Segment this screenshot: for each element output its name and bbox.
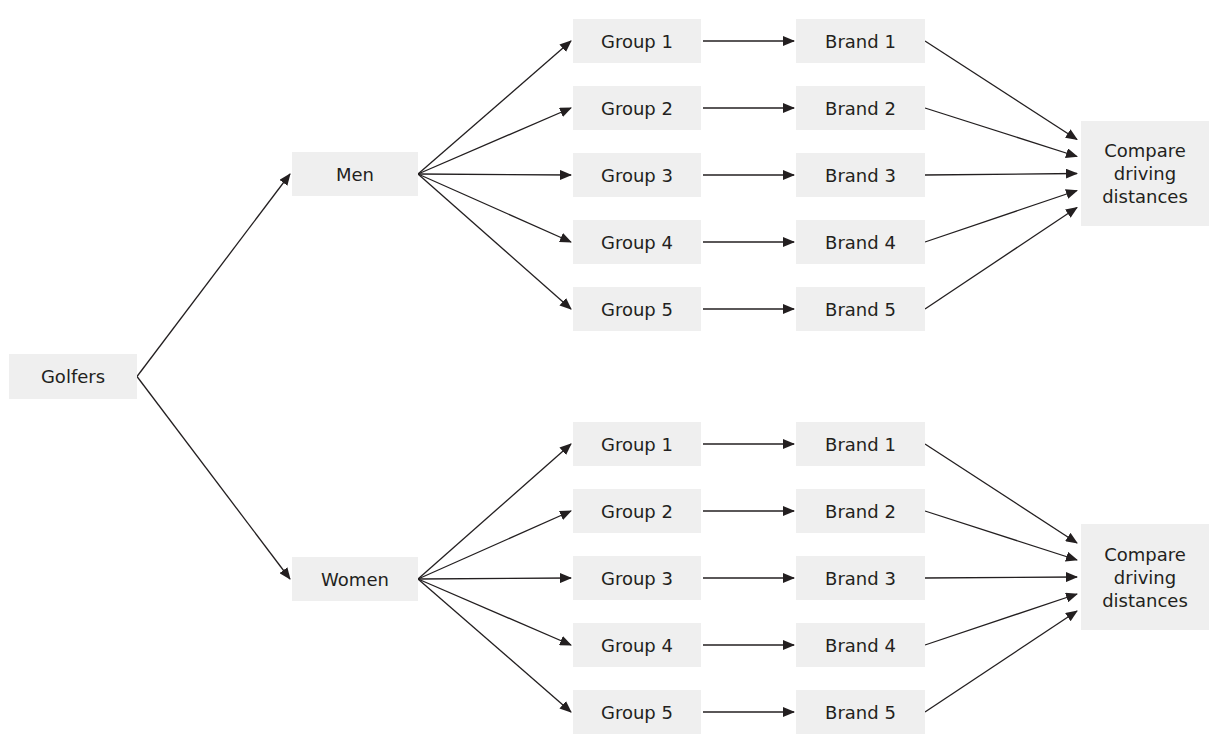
men-group-1-box: Group 1 xyxy=(573,19,701,63)
arrow-men-brand-1-to-compare xyxy=(925,41,1077,140)
men-brand-1-box: Brand 1 xyxy=(796,19,925,63)
arrow-women-to-group-5 xyxy=(418,579,571,712)
women-brand-1-box: Brand 1 xyxy=(796,422,925,466)
arrow-women-to-group-4 xyxy=(418,579,571,645)
golfers-box: Golfers xyxy=(9,354,137,399)
women-box: Women xyxy=(292,557,418,601)
arrow-women-to-group-3 xyxy=(418,578,571,579)
arrow-men-to-group-2 xyxy=(418,108,571,174)
arrow-women-brand-1-to-compare xyxy=(925,444,1077,543)
arrow-men-to-group-5 xyxy=(418,174,571,309)
men-brand-4-box: Brand 4 xyxy=(796,220,925,264)
arrow-men-to-group-4 xyxy=(418,174,571,242)
arrow-women-brand-3-to-compare xyxy=(925,577,1077,578)
arrow-men-brand-4-to-compare xyxy=(925,191,1077,243)
arrow-men-brand-2-to-compare xyxy=(925,108,1077,157)
arrow-men-to-group-1 xyxy=(418,41,571,174)
women-brand-2-box: Brand 2 xyxy=(796,489,925,533)
arrow-women-to-group-1 xyxy=(418,444,571,579)
arrow-women-brand-5-to-compare xyxy=(925,611,1077,712)
arrow-women-brand-2-to-compare xyxy=(925,511,1077,560)
men-group-3-box: Group 3 xyxy=(573,153,701,197)
arrow-women-to-group-2 xyxy=(418,511,571,579)
men-group-2-box: Group 2 xyxy=(573,86,701,130)
arrow-golfers-to-men xyxy=(137,174,290,377)
women-group-2-box: Group 2 xyxy=(573,489,701,533)
women-brand-5-box: Brand 5 xyxy=(796,690,925,734)
women-compare-driving-distances-box: Compare driving distances xyxy=(1081,524,1209,630)
women-group-3-box: Group 3 xyxy=(573,556,701,600)
men-brand-5-box: Brand 5 xyxy=(796,287,925,331)
women-group-5-box: Group 5 xyxy=(573,690,701,734)
arrow-men-to-group-3 xyxy=(418,174,571,175)
men-brand-3-box: Brand 3 xyxy=(796,153,925,197)
women-brand-4-box: Brand 4 xyxy=(796,623,925,667)
arrow-golfers-to-women xyxy=(137,377,290,580)
men-group-5-box: Group 5 xyxy=(573,287,701,331)
men-brand-2-box: Brand 2 xyxy=(796,86,925,130)
men-box: Men xyxy=(292,152,418,196)
arrow-women-brand-4-to-compare xyxy=(925,594,1077,645)
men-group-4-box: Group 4 xyxy=(573,220,701,264)
arrow-men-brand-5-to-compare xyxy=(925,208,1077,310)
women-group-1-box: Group 1 xyxy=(573,422,701,466)
women-brand-3-box: Brand 3 xyxy=(796,556,925,600)
women-group-4-box: Group 4 xyxy=(573,623,701,667)
arrow-men-brand-3-to-compare xyxy=(925,174,1077,176)
experiment-design-diagram: Golfers Men Women Group 1 Group 2 Group … xyxy=(0,0,1211,737)
men-compare-driving-distances-box: Compare driving distances xyxy=(1081,121,1209,226)
